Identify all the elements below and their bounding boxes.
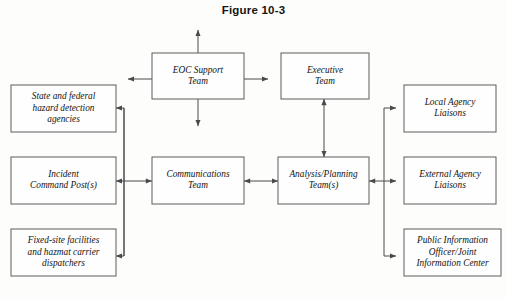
figure-container: Figure 10-3 <box>0 0 507 299</box>
node-layer: State and federalhazard detectionagencie… <box>11 53 501 276</box>
flowchart-diagram: State and federalhazard detectionagencie… <box>0 0 507 299</box>
node-label-local-agency-liaisons: Liaisons <box>433 108 466 118</box>
node-label-external-agency-liaisons: External Agency <box>418 169 481 179</box>
node-label-eoc-support-team: Team <box>188 76 208 86</box>
node-incident-command-post[interactable]: IncidentCommand Post(s) <box>11 157 116 204</box>
node-label-state-federal-hazard: agencies <box>47 114 80 124</box>
node-label-state-federal-hazard: hazard detection <box>33 103 95 113</box>
node-label-executive-team: Executive <box>306 65 343 75</box>
node-label-fixed-site-facilities: dispatchers <box>42 258 85 268</box>
node-executive-team[interactable]: ExecutiveTeam <box>281 53 369 99</box>
node-fixed-site-facilities[interactable]: Fixed-site facilitiesand hazmat carrierd… <box>11 229 116 276</box>
node-label-communications-team: Communications <box>166 169 229 179</box>
node-label-fixed-site-facilities: Fixed-site facilities <box>27 235 100 245</box>
node-state-federal-hazard[interactable]: State and federalhazard detectionagencie… <box>11 85 116 132</box>
node-label-incident-command-post: Incident <box>47 169 79 179</box>
node-label-external-agency-liaisons: Liaisons <box>433 180 466 190</box>
node-label-public-information-officer: Information Center <box>415 258 488 268</box>
node-label-eoc-support-team: EOC Support <box>172 65 224 75</box>
node-public-information-officer[interactable]: Public InformationOfficer/JointInformati… <box>404 229 501 276</box>
node-label-fixed-site-facilities: and hazmat carrier <box>28 247 100 257</box>
node-analysis-planning-team[interactable]: Analysis/PlanningTeam(s) <box>278 157 369 204</box>
node-label-public-information-officer: Officer/Joint <box>429 247 477 257</box>
node-label-public-information-officer: Public Information <box>416 235 488 245</box>
node-label-incident-command-post: Command Post(s) <box>30 180 97 191</box>
node-communications-team[interactable]: CommunicationsTeam <box>152 157 244 204</box>
node-label-analysis-planning-team: Analysis/Planning <box>288 169 358 179</box>
node-label-analysis-planning-team: Team(s) <box>309 180 339 191</box>
node-label-communications-team: Team <box>188 180 208 190</box>
node-label-local-agency-liaisons: Local Agency <box>424 97 477 107</box>
node-eoc-support-team[interactable]: EOC SupportTeam <box>152 53 244 99</box>
node-label-executive-team: Team <box>315 76 335 86</box>
node-local-agency-liaisons[interactable]: Local AgencyLiaisons <box>404 85 496 132</box>
node-external-agency-liaisons[interactable]: External AgencyLiaisons <box>404 157 496 204</box>
node-label-state-federal-hazard: State and federal <box>32 91 96 101</box>
